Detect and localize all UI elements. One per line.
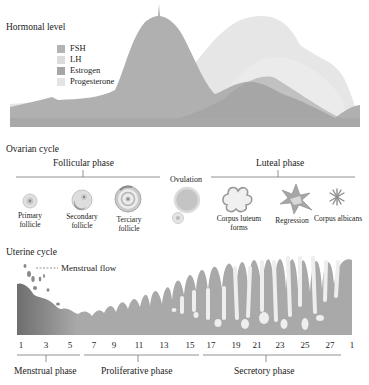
menstrual-phase-label: Menstrual phase (14, 366, 77, 376)
gland-lumens (172, 308, 325, 330)
luteal-phase-label: Luteal phase (256, 158, 304, 168)
day-label: 19 (228, 340, 244, 350)
stage-label-terciary-follicle: Terciary follicle (110, 215, 148, 233)
legend-item-estrogen: Estrogen (57, 65, 114, 76)
day-label: 13 (156, 340, 172, 350)
hormone-legend: FSH LH Estrogen Progesterone (57, 43, 114, 87)
estrogen-swatch (57, 67, 65, 75)
corpus-albicans-icon (330, 189, 344, 205)
day-label: 1 (13, 340, 29, 350)
day-label: 3 (38, 340, 54, 350)
day-label: 7 (86, 340, 102, 350)
stage-label-secondary-follicle: Secondary follicle (60, 212, 104, 230)
follicular-phase-label: Follicular phase (53, 158, 114, 168)
stage-label-corpus-albicans: Corpus albicans (311, 214, 365, 223)
terciary-follicle-icon (115, 186, 141, 212)
secondary-follicle-icon (72, 190, 92, 210)
day-label: 17 (203, 340, 219, 350)
legend-label: FSH (70, 43, 86, 54)
stage-label-regression: Regression (272, 216, 312, 225)
secretory-phase-label: Secretory phase (234, 366, 294, 376)
day-label: 1 (344, 340, 360, 350)
ovulation-label: Ovulation (170, 175, 202, 184)
day-label: 25 (297, 340, 313, 350)
legend-label: LH (70, 54, 81, 65)
day-label: 5 (62, 340, 78, 350)
lh-swatch (57, 56, 65, 64)
stage-label-corpus-luteum: Corpus luteum forms (213, 214, 265, 232)
primary-follicle-icon (23, 194, 37, 208)
day-label: 9 (106, 340, 122, 350)
fsh-swatch (57, 45, 65, 53)
day-label: 21 (249, 340, 265, 350)
progesterone-swatch (57, 78, 65, 86)
corpus-luteum-icon (223, 188, 252, 212)
day-label: 23 (272, 340, 288, 350)
day-label: 15 (182, 340, 198, 350)
ovarian-cycle-title: Ovarian cycle (6, 144, 59, 154)
menstrual-debris (24, 264, 61, 306)
endometrial-glands (182, 258, 338, 320)
legend-label: Estrogen (70, 65, 100, 76)
legend-item-fsh: FSH (57, 43, 114, 54)
regression-icon (280, 184, 312, 214)
day-label: 11 (131, 340, 147, 350)
uterine-cycle-title: Uterine cycle (6, 247, 57, 257)
hormonal-level-title: Hormonal level (6, 22, 65, 32)
legend-label: Progesterone (70, 76, 114, 87)
menstrual-flow-label: Menstrual flow (61, 264, 116, 273)
legend-item-progesterone: Progesterone (57, 76, 114, 87)
legend-item-lh: LH (57, 54, 114, 65)
hormone-curves (0, 0, 369, 135)
ovulation-icon (173, 188, 200, 224)
day-label: 27 (322, 340, 338, 350)
proliferative-phase-label: Proliferative phase (101, 366, 173, 376)
stage-label-primary-follicle: Primary follicle (12, 211, 48, 229)
